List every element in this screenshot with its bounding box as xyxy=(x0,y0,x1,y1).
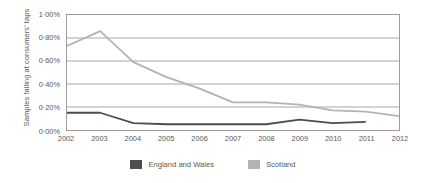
y-axis-tick-label: 1·00% xyxy=(8,10,60,19)
x-axis-tick-label: 2010 xyxy=(325,134,341,143)
x-axis-tick-label: 2003 xyxy=(91,134,107,143)
x-axis-tick-label: 2011 xyxy=(359,134,375,143)
legend-item: England and Wales xyxy=(130,160,214,169)
series-line-scotland xyxy=(67,31,399,116)
data-series-lines xyxy=(67,15,399,130)
x-axis-tick-labels: 2002200320042005200620072008200920102011… xyxy=(66,134,400,148)
chart-legend: England and WalesScotland xyxy=(0,160,426,169)
line-chart-figure: Samples failing at consumers' taps 1·00%… xyxy=(0,0,426,183)
x-axis-tick-label: 2005 xyxy=(158,134,174,143)
legend-swatch-icon xyxy=(130,160,142,169)
y-axis-tick-label: 0·40% xyxy=(8,80,60,89)
series-line-england-and-wales xyxy=(67,113,366,125)
x-axis-tick-label: 2008 xyxy=(258,134,274,143)
y-axis-tick-label: 0·60% xyxy=(8,56,60,65)
x-axis-tick-label: 2007 xyxy=(225,134,241,143)
legend-swatch-icon xyxy=(248,160,260,169)
y-axis-title: Samples failing at consumers' taps xyxy=(22,0,31,138)
x-axis-tick-label: 2012 xyxy=(392,134,408,143)
y-axis-tick-label: 0·80% xyxy=(8,33,60,42)
legend-label: Scotland xyxy=(266,160,296,169)
x-axis-tick-label: 2006 xyxy=(191,134,207,143)
legend-item: Scotland xyxy=(248,160,296,169)
y-axis-tick-label: 0·20% xyxy=(8,103,60,112)
x-axis-tick-label: 2002 xyxy=(58,134,74,143)
plot-area xyxy=(66,14,400,131)
x-axis-tick-label: 2009 xyxy=(292,134,308,143)
x-axis-tick-label: 2004 xyxy=(125,134,141,143)
y-axis-tick-label: 0·00% xyxy=(8,127,60,136)
legend-label: England and Wales xyxy=(148,160,214,169)
